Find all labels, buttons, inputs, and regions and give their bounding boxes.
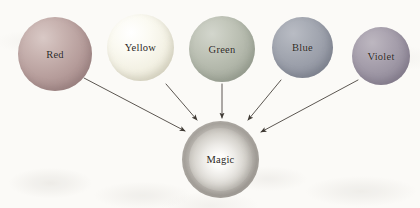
edge-red-to-magic: [84, 78, 185, 131]
node-red-label: Red: [46, 49, 64, 60]
edge-blue-to-magic: [248, 80, 281, 120]
edge-yellow-to-magic: [166, 84, 197, 120]
diagram-canvas: Red Yellow Green Blue Violet Magic: [0, 0, 420, 208]
node-green-label: Green: [209, 44, 236, 55]
node-violet: Violet: [352, 27, 410, 85]
edge-violet-to-magic: [261, 80, 358, 132]
node-yellow-label: Yellow: [125, 42, 156, 53]
magic-core: Magic: [189, 128, 252, 191]
node-blue-label: Blue: [292, 42, 313, 53]
node-red: Red: [18, 17, 92, 91]
node-yellow: Yellow: [107, 14, 174, 81]
node-green: Green: [189, 16, 255, 82]
node-blue: Blue: [272, 17, 333, 78]
node-violet-label: Violet: [367, 51, 394, 62]
node-magic-label: Magic: [206, 154, 234, 165]
node-magic: Magic: [182, 121, 259, 198]
